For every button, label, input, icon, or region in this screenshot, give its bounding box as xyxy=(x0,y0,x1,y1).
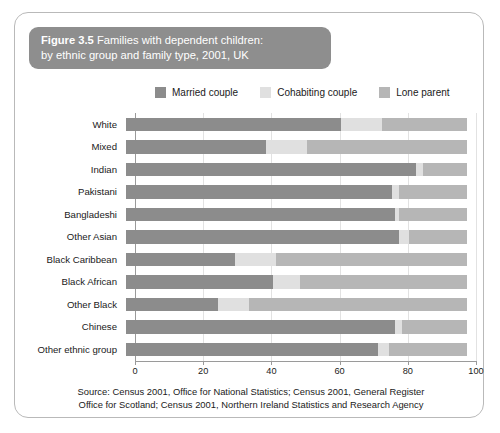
stacked-bar xyxy=(126,298,467,312)
chart-legend: Married couple Cohabiting couple Lone pa… xyxy=(155,87,450,98)
category-label: Bangladeshi xyxy=(15,209,126,220)
bar-segment xyxy=(126,140,266,154)
bar-track xyxy=(126,113,467,136)
chart-row: Other ethnic group xyxy=(15,338,485,361)
tick-mark xyxy=(203,362,204,365)
chart-row: Other Asian xyxy=(15,226,485,249)
tick-mark xyxy=(135,362,136,365)
bar-track xyxy=(126,316,467,339)
legend-item-married-couple: Married couple xyxy=(155,87,238,98)
bar-track xyxy=(126,181,467,204)
bar-segment xyxy=(378,343,388,357)
legend-swatch-married-couple xyxy=(155,87,166,98)
chart-row: Black Caribbean xyxy=(15,248,485,271)
source-line-1: Source: Census 2001, Office for National… xyxy=(78,386,425,397)
tick-mark xyxy=(271,362,272,365)
chart-row: White xyxy=(15,113,485,136)
figure-number: Figure 3.5 xyxy=(41,34,94,46)
chart-row: Mixed xyxy=(15,136,485,159)
source-line-2: Office for Scotland; Census 2001, Northe… xyxy=(79,399,424,410)
chart-row: Black African xyxy=(15,271,485,294)
tick-mark xyxy=(408,362,409,365)
stacked-bar xyxy=(126,253,467,267)
stacked-bar xyxy=(126,185,467,199)
stacked-bar xyxy=(126,140,467,154)
category-label: Other Asian xyxy=(15,231,126,242)
x-tick-label: 20 xyxy=(198,366,208,376)
bar-segment xyxy=(395,320,402,334)
category-label: Other Black xyxy=(15,299,126,310)
bar-track xyxy=(126,203,467,226)
figure-card: Figure 3.5 Families with dependent child… xyxy=(14,12,484,418)
stacked-bar xyxy=(126,320,467,334)
stacked-bar xyxy=(126,118,467,132)
bar-segment xyxy=(276,253,467,267)
bar-segment xyxy=(409,230,467,244)
bar-segment xyxy=(126,275,273,289)
figure-title-line2: by ethnic group and family type, 2001, U… xyxy=(41,49,249,61)
figure-title-line1: Families with dependent children: xyxy=(94,34,263,46)
chart-row: Other Black xyxy=(15,293,485,316)
bar-segment xyxy=(126,185,392,199)
bar-track xyxy=(126,271,467,294)
x-tick-label: 100 xyxy=(468,366,483,376)
bar-segment xyxy=(266,140,307,154)
bar-segment xyxy=(218,298,249,312)
legend-label-lone-parent: Lone parent xyxy=(396,87,449,98)
bar-segment xyxy=(249,298,467,312)
bar-segment xyxy=(235,253,276,267)
bar-segment xyxy=(416,163,423,177)
legend-label-cohabiting-couple: Cohabiting couple xyxy=(277,87,357,98)
bar-track xyxy=(126,248,467,271)
chart-row: Pakistani xyxy=(15,181,485,204)
chart-row: Chinese xyxy=(15,316,485,339)
bar-segment xyxy=(389,343,467,357)
bar-segment xyxy=(402,320,467,334)
category-label: Other ethnic group xyxy=(15,344,126,355)
bar-segment xyxy=(399,208,467,222)
chart-row: Bangladeshi xyxy=(15,203,485,226)
bar-rows: WhiteMixedIndianPakistaniBangladeshiOthe… xyxy=(15,113,485,361)
bar-segment xyxy=(399,185,467,199)
category-label: Mixed xyxy=(15,141,126,152)
bar-segment xyxy=(392,185,399,199)
x-tick-label: 40 xyxy=(266,366,276,376)
x-tick-label: 80 xyxy=(403,366,413,376)
bar-segment xyxy=(126,163,416,177)
category-label: Black African xyxy=(15,276,126,287)
bar-track xyxy=(126,158,467,181)
source-note: Source: Census 2001, Office for National… xyxy=(35,385,467,411)
plot-area: WhiteMixedIndianPakistaniBangladeshiOthe… xyxy=(15,113,485,371)
category-label: White xyxy=(15,119,126,130)
tick-mark xyxy=(340,362,341,365)
bar-segment xyxy=(126,253,235,267)
bar-segment xyxy=(423,163,467,177)
stacked-bar xyxy=(126,208,467,222)
legend-item-cohabiting-couple: Cohabiting couple xyxy=(260,87,357,98)
bar-segment xyxy=(126,118,341,132)
category-label: Pakistani xyxy=(15,186,126,197)
bar-segment xyxy=(126,298,218,312)
bar-segment xyxy=(382,118,467,132)
bar-segment xyxy=(273,275,300,289)
bar-segment xyxy=(126,343,378,357)
chart-row: Indian xyxy=(15,158,485,181)
bar-segment xyxy=(300,275,467,289)
category-label: Chinese xyxy=(15,321,126,332)
category-label: Indian xyxy=(15,164,126,175)
bar-segment xyxy=(399,230,409,244)
bar-segment xyxy=(307,140,467,154)
bar-track xyxy=(126,136,467,159)
category-label: Black Caribbean xyxy=(15,254,126,265)
bar-segment xyxy=(126,320,395,334)
bar-track xyxy=(126,338,467,361)
x-axis-ticks: 020406080100 xyxy=(135,362,477,378)
bar-segment xyxy=(341,118,382,132)
legend-swatch-lone-parent xyxy=(379,87,390,98)
stacked-bar xyxy=(126,275,467,289)
bar-track xyxy=(126,226,467,249)
stacked-bar xyxy=(126,163,467,177)
stacked-bar xyxy=(126,343,467,357)
tick-mark xyxy=(476,362,477,365)
bar-segment xyxy=(126,230,399,244)
